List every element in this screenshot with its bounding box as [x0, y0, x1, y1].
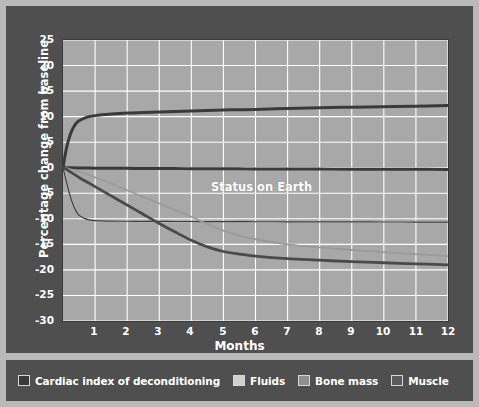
legend-swatch-icon	[18, 375, 30, 386]
legend-item-list: Cardiac index of deconditioningFluidsBon…	[6, 375, 449, 387]
legend-item[interactable]: Muscle	[391, 375, 449, 387]
x-tick-8: 8	[309, 326, 329, 336]
legend-label: Muscle	[408, 375, 449, 387]
plot-area: Status on Earth	[62, 39, 449, 322]
legend-swatch-icon	[298, 375, 310, 386]
legend-label: Cardiac index of deconditioning	[35, 375, 220, 387]
y-tick-m30: -30	[22, 315, 54, 325]
y-axis-title: Percentage change from baseline	[37, 29, 51, 269]
legend-label: Bone mass	[315, 375, 378, 387]
x-tick-6: 6	[245, 326, 265, 336]
legend-item[interactable]: Bone mass	[298, 375, 378, 387]
x-tick-9: 9	[341, 326, 361, 336]
x-tick-1: 1	[84, 326, 104, 336]
series-line	[63, 168, 448, 170]
x-tick-3: 3	[148, 326, 168, 336]
legend-item[interactable]: Fluids	[233, 375, 285, 387]
figure-root: Percentage change from baseline 25 20 15…	[0, 0, 479, 407]
x-tick-2: 2	[116, 326, 136, 336]
chart-panel: Percentage change from baseline 25 20 15…	[6, 6, 473, 353]
x-tick-11: 11	[406, 326, 426, 336]
x-tick-10: 10	[373, 326, 393, 336]
legend-swatch-icon	[391, 375, 403, 386]
y-tick-m25: -25	[22, 289, 54, 299]
status-on-earth-annotation: Status on Earth	[211, 180, 312, 194]
legend-panel: Cardiac index of deconditioningFluidsBon…	[6, 360, 473, 401]
x-axis-title: Months	[6, 339, 473, 353]
x-tick-12: 12	[438, 326, 458, 336]
legend-swatch-icon	[233, 375, 245, 386]
x-tick-4: 4	[180, 326, 200, 336]
x-tick-7: 7	[277, 326, 297, 336]
x-tick-5: 5	[213, 326, 233, 336]
legend-item[interactable]: Cardiac index of deconditioning	[18, 375, 220, 387]
legend-label: Fluids	[250, 375, 285, 387]
